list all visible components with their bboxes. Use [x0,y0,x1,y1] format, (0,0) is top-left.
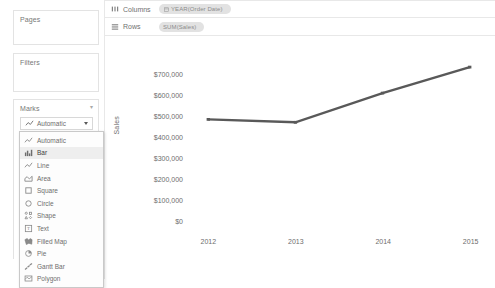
square-mark-icon [24,186,33,195]
mark-option-label: Bar [37,149,47,156]
text-mark-icon: T [24,224,33,233]
polygon-mark-icon [24,274,33,283]
rows-shelf[interactable]: Rows SUM(Sales) [105,18,495,36]
area-mark-icon [24,174,33,183]
y-axis-tick-label: $0 [121,218,183,225]
mark-option-polygon[interactable]: Polygon [20,273,103,286]
series-polyline [208,67,469,122]
mark-option-label: Pie [37,250,46,257]
mark-type-dropdown-list[interactable]: Automatic Bar [19,131,104,288]
mark-option-label: Gantt Bar [37,263,65,270]
pages-card-title: Pages [14,11,98,24]
series-marker [468,66,471,69]
series-marker [294,121,297,124]
mark-option-label: Filled Map [37,238,67,245]
pill-year-order-date[interactable]: YEAR(Order Date) [159,4,231,14]
mark-option-filled-map[interactable]: Filled Map [20,235,103,248]
mark-option-gantt-bar[interactable]: Gantt Bar [20,260,103,273]
left-shelf-panel: Pages Filters Marks ▾ Automatic [0,0,105,279]
mark-option-label: Automatic [37,137,66,144]
y-axis-tick-label: $200,000 [121,176,183,183]
line-chart: Sales $700,000$600,000$500,000$400,000$3… [105,38,495,279]
marks-card-header: Marks ▾ [14,100,98,113]
series-marker [381,92,384,95]
mark-option-label: Circle [37,200,54,207]
mark-option-shape[interactable]: Shape [20,210,103,223]
mark-option-label: Line [37,162,49,169]
series-marker [207,118,210,121]
filters-card[interactable]: Filters [13,53,99,92]
x-axis-tick-label: 2015 [463,238,479,245]
mark-option-automatic[interactable]: Automatic [20,134,103,147]
marks-card[interactable]: Marks ▾ Automatic Automatic [13,99,99,259]
y-axis-tick-label: $600,000 [121,92,183,99]
y-axis-tick-label: $700,000 [121,71,183,78]
bar-mark-icon [24,148,33,157]
chart-view[interactable]: Sales $700,000$600,000$500,000$400,000$3… [105,38,495,279]
mark-option-line[interactable]: Line [20,159,103,172]
y-axis-tick-label: $100,000 [121,197,183,204]
mark-option-text[interactable]: T Text [20,222,103,235]
filters-card-title: Filters [14,54,98,67]
series-markers [207,66,472,124]
columns-shelf-label: Columns [123,6,159,13]
y-axis-title: Sales [113,116,120,135]
mark-option-circle[interactable]: Circle [20,197,103,210]
mark-option-label: Area [37,175,51,182]
mark-option-label: Polygon [37,275,61,282]
worksheet-main: Columns YEAR(Order Date) Rows [105,0,495,279]
y-axis-tick-label: $300,000 [121,155,183,162]
pill-label: YEAR(Order Date) [171,6,223,12]
line-mark-icon [24,136,33,145]
filled-map-mark-icon [24,237,33,246]
y-axis-tick-label: $500,000 [121,113,183,120]
mark-option-pie[interactable]: Pie [20,247,103,260]
x-axis-tick-label: 2012 [201,238,217,245]
svg-text:T: T [27,226,30,231]
x-axis-tick-label: 2014 [375,238,391,245]
line-mark-icon [24,161,33,170]
columns-shelf[interactable]: Columns YEAR(Order Date) [105,0,495,18]
mark-option-label: Shape [37,212,56,219]
mark-type-selected-label: Automatic [37,120,84,127]
circle-mark-icon [24,199,33,208]
chevron-down-icon[interactable]: ▾ [90,100,98,111]
marks-card-title: Marks [14,100,40,113]
mark-option-label: Text [37,225,49,232]
mark-option-area[interactable]: Area [20,172,103,185]
series-line-sales [187,38,491,234]
gantt-bar-mark-icon [24,262,33,271]
mark-option-label: Square [37,187,58,194]
pages-card[interactable]: Pages [13,10,99,45]
plot-area [187,38,491,234]
line-mark-icon [25,119,34,128]
x-axis-tick-label: 2013 [288,238,304,245]
columns-icon [110,5,119,14]
pill-sum-sales[interactable]: SUM(Sales) [159,22,204,32]
rows-shelf-label: Rows [123,23,159,30]
chevron-down-icon[interactable] [84,122,88,125]
mark-type-select[interactable]: Automatic [20,117,93,130]
calendar-icon [163,6,169,12]
pie-mark-icon [24,249,33,258]
mark-option-square[interactable]: Square [20,184,103,197]
pill-label: SUM(Sales) [163,24,196,30]
shape-mark-icon [24,211,33,220]
mark-option-bar[interactable]: Bar [20,147,103,160]
y-axis-ticks: $700,000$600,000$500,000$400,000$300,000… [121,38,183,279]
y-axis-tick-label: $400,000 [121,134,183,141]
rows-icon [110,22,119,31]
